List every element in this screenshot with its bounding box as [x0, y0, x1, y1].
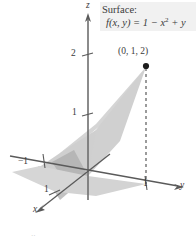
surface-callout: Surface: f(x, y) = 1 − x2 + y: [100, 2, 196, 31]
surface-plot-figure: [0, 0, 196, 244]
z-tick-label-1: 1: [72, 108, 77, 118]
y-tick-label-negative-1: −1: [18, 157, 28, 167]
callout-equation-prefix: f(x, y) = 1 − x: [106, 17, 165, 28]
callout-title: Surface:: [102, 3, 196, 16]
y-axis-label: y: [180, 181, 184, 191]
callout-equation-suffix: + y: [169, 17, 186, 28]
z-tick-label-2: 2: [71, 49, 76, 59]
surface-shading: [12, 67, 146, 200]
x-axis-label: x: [33, 205, 37, 215]
y-tick-label-1: 1: [143, 179, 148, 189]
x-tick-label-1: 1: [44, 185, 49, 195]
callout-equation: f(x, y) = 1 − x2 + y: [102, 16, 196, 29]
z-axis-label: z: [86, 1, 90, 11]
scan-artifact: ··: [31, 233, 36, 240]
point-marker: [143, 63, 149, 69]
point-label: (0, 1, 2): [118, 47, 148, 57]
